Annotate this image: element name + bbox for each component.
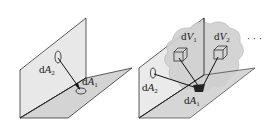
left-label-dA1: dA1 <box>82 76 98 89</box>
right-label-ellipsis: · · · <box>247 34 262 44</box>
dA1-target <box>193 84 205 92</box>
left-panel <box>20 18 132 118</box>
right-label-dV2: dV2 <box>214 31 230 44</box>
right-label-dA2: dA2 <box>142 82 158 95</box>
right-label-dA1: dA1 <box>184 95 200 108</box>
left-label-dA2: dA2 <box>39 64 55 77</box>
right-label-dV1: dV1 <box>181 31 197 44</box>
